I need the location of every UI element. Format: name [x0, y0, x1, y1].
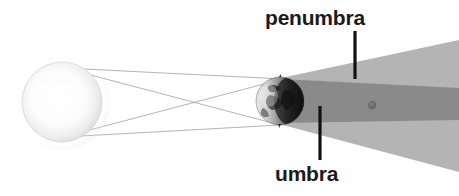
penumbra-label: penumbra [265, 7, 365, 28]
eclipse-diagram: penumbra umbra [0, 0, 459, 196]
sun-body [14, 54, 110, 150]
moon-body [368, 101, 376, 109]
scene-svg [0, 0, 459, 196]
umbra-label: umbra [275, 163, 338, 184]
